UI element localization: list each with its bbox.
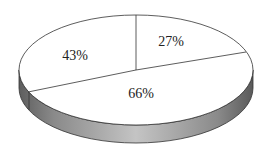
- slice-label-bottom: 66%: [128, 86, 154, 101]
- slice-label-upper-right: 27%: [158, 34, 184, 49]
- slice-label-upper-left: 43%: [62, 48, 88, 63]
- pie-chart-3d: 43% 27% 66%: [0, 0, 265, 159]
